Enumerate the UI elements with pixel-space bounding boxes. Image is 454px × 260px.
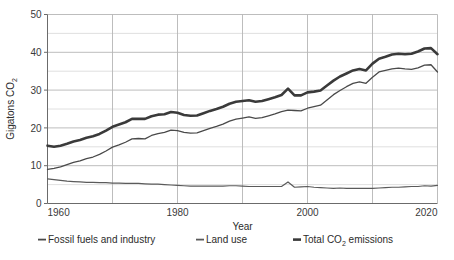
chart-canvas: 01020304050 1960198020002020 Gigatons CO… xyxy=(0,0,454,260)
legend-label-landuse: Land use xyxy=(206,234,248,245)
x-tick-label: 2020 xyxy=(415,207,438,218)
legend-label-fossil: Fossil fuels and industry xyxy=(48,234,155,245)
y-tick-label: 10 xyxy=(30,160,42,171)
y-tick-label: 30 xyxy=(30,85,42,96)
y-tick-label: 50 xyxy=(30,9,42,20)
x-tick-label: 1980 xyxy=(166,207,189,218)
x-tick-label: 1960 xyxy=(48,207,71,218)
legend-item-fossil[interactable]: Fossil fuels and industry xyxy=(38,234,155,245)
x-axis-title-text: Year xyxy=(232,221,253,232)
legend-label-total: Total CO2 emissions xyxy=(303,234,393,247)
y-axis-title: Gigatons CO2 xyxy=(5,78,18,140)
chart-legend: Fossil fuels and industryLand useTotal C… xyxy=(38,234,393,247)
y-tick-label: 40 xyxy=(30,47,42,58)
chart-background xyxy=(0,0,454,260)
x-axis-title: Year xyxy=(232,221,253,232)
y-axis-title-text: Gigatons CO2 xyxy=(5,78,18,140)
x-tick-label: 2000 xyxy=(296,207,319,218)
y-tick-label: 20 xyxy=(30,123,42,134)
y-tick-label: 0 xyxy=(36,198,42,209)
co2-emissions-chart: 01020304050 1960198020002020 Gigatons CO… xyxy=(0,0,454,260)
